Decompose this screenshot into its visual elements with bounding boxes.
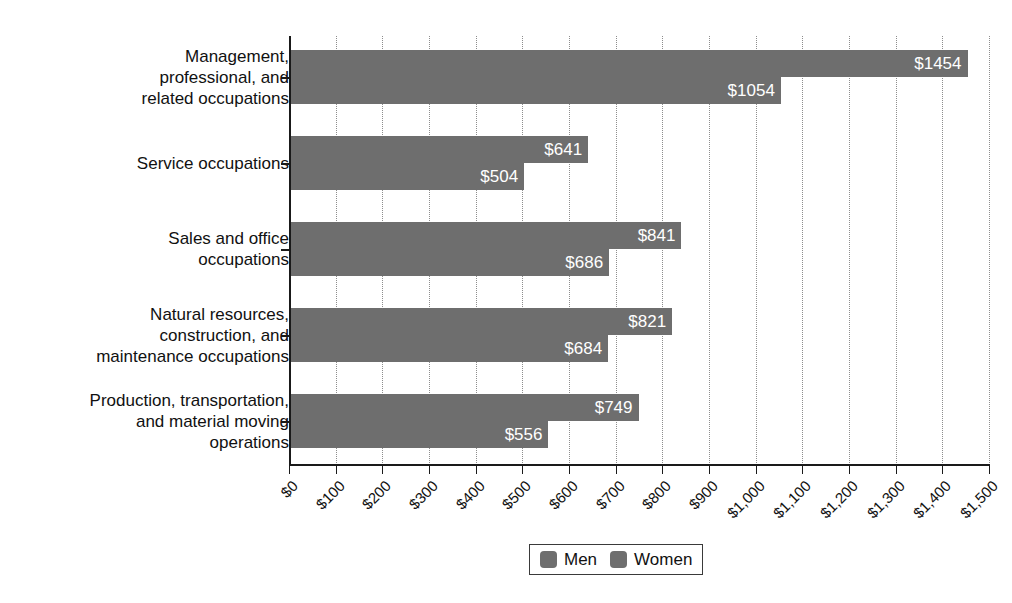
gridline: [989, 36, 991, 465]
y-axis-line: [289, 36, 291, 466]
bar-value-label: $641: [544, 136, 582, 163]
x-tick-label: $1,500: [957, 477, 1001, 521]
bar-value-label: $504: [480, 163, 518, 190]
x-tick-label: $900: [685, 477, 721, 513]
x-tick-mark: [989, 465, 990, 474]
x-tick-mark: [896, 465, 897, 474]
bar-men: $749: [289, 394, 639, 421]
bar-value-label: $841: [638, 222, 676, 249]
bar-chart: Management, professional, and related oc…: [0, 0, 1012, 603]
x-tick-label: $400: [452, 477, 488, 513]
x-tick-mark: [756, 465, 757, 474]
x-tick-mark: [709, 465, 710, 474]
legend-label: Men: [564, 551, 597, 568]
legend-label: Women: [634, 551, 692, 568]
x-tick-label: $500: [499, 477, 535, 513]
legend-swatch-icon: [610, 551, 627, 568]
x-tick-label: $1,200: [817, 477, 861, 521]
bar-value-label: $686: [565, 249, 603, 276]
y-axis-category-label: Production, transportation, and material…: [19, 390, 289, 453]
legend-swatch-icon: [540, 551, 557, 568]
x-axis-line: [289, 464, 990, 466]
chart-legend: Men Women: [529, 544, 703, 575]
x-tick-mark: [662, 465, 663, 474]
x-tick-label: $1,400: [910, 477, 954, 521]
bar-women: $684: [289, 335, 608, 362]
plot-area: $1454$1054$641$504$841$686$821$684$749$5…: [289, 36, 989, 465]
x-tick-label: $1,000: [723, 477, 767, 521]
legend-item-women[interactable]: Women: [610, 551, 692, 568]
x-tick-mark: [802, 465, 803, 474]
bar-value-label: $821: [628, 308, 666, 335]
gridline: [849, 36, 851, 465]
x-tick-mark: [522, 465, 523, 474]
bar-women: $1054: [289, 77, 781, 104]
x-tick-mark: [336, 465, 337, 474]
x-tick-label: $0: [277, 477, 301, 501]
x-tick-mark: [382, 465, 383, 474]
bar-women: $556: [289, 421, 548, 448]
bar-value-label: $1054: [728, 77, 775, 104]
x-tick-mark: [569, 465, 570, 474]
bar-value-label: $684: [564, 335, 602, 362]
x-tick-label: $800: [639, 477, 675, 513]
bar-men: $841: [289, 222, 681, 249]
bar-value-label: $556: [505, 421, 543, 448]
x-tick-mark: [476, 465, 477, 474]
y-axis-category-label: Service occupations: [19, 153, 289, 174]
x-tick-label: $300: [405, 477, 441, 513]
x-tick-mark: [289, 465, 290, 474]
x-tick-label: $100: [312, 477, 348, 513]
bar-women: $686: [289, 249, 609, 276]
legend-item-men[interactable]: Men: [540, 551, 597, 568]
bar-women: $504: [289, 163, 524, 190]
y-axis-category-label: Sales and office occupations: [19, 228, 289, 270]
y-axis-category-label: Management, professional, and related oc…: [19, 46, 289, 109]
gridline: [942, 36, 944, 465]
x-tick-label: $1,300: [863, 477, 907, 521]
bar-value-label: $749: [595, 394, 633, 421]
y-axis-category-label: Natural resources, construction, and mai…: [19, 304, 289, 367]
x-tick-mark: [616, 465, 617, 474]
bar-men: $641: [289, 136, 588, 163]
x-tick-mark: [849, 465, 850, 474]
x-tick-label: $700: [592, 477, 628, 513]
gridline: [896, 36, 898, 465]
bar-men: $1454: [289, 50, 968, 77]
x-tick-label: $1,100: [770, 477, 814, 521]
x-tick-label: $600: [545, 477, 581, 513]
x-tick-label: $200: [359, 477, 395, 513]
x-tick-mark: [942, 465, 943, 474]
bar-value-label: $1454: [914, 50, 961, 77]
x-tick-mark: [429, 465, 430, 474]
bar-men: $821: [289, 308, 672, 335]
gridline: [802, 36, 804, 465]
